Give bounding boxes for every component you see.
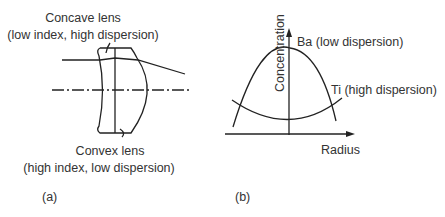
panel-b-label: (b) bbox=[235, 189, 250, 205]
convex-lens-label: Convex lens bbox=[76, 143, 145, 159]
concave-lens-label: Concave lens bbox=[45, 10, 121, 26]
light-ray bbox=[62, 58, 185, 74]
doublet-lens bbox=[52, 43, 190, 137]
panel-a-label: (a) bbox=[42, 189, 57, 205]
x-axis-arrow bbox=[346, 131, 355, 137]
ti-curve-label: Ti (high dispersion) bbox=[331, 82, 437, 98]
ba-curve-label: Ba (low dispersion) bbox=[297, 34, 403, 50]
convex-lens-detail: (high index, low dispersion) bbox=[23, 160, 174, 176]
concave-lens-detail: (low index, high dispersion) bbox=[7, 27, 158, 43]
x-axis-label: Radius bbox=[321, 142, 360, 158]
ti-curve bbox=[232, 98, 342, 120]
y-axis-label: Concentration bbox=[273, 14, 287, 92]
